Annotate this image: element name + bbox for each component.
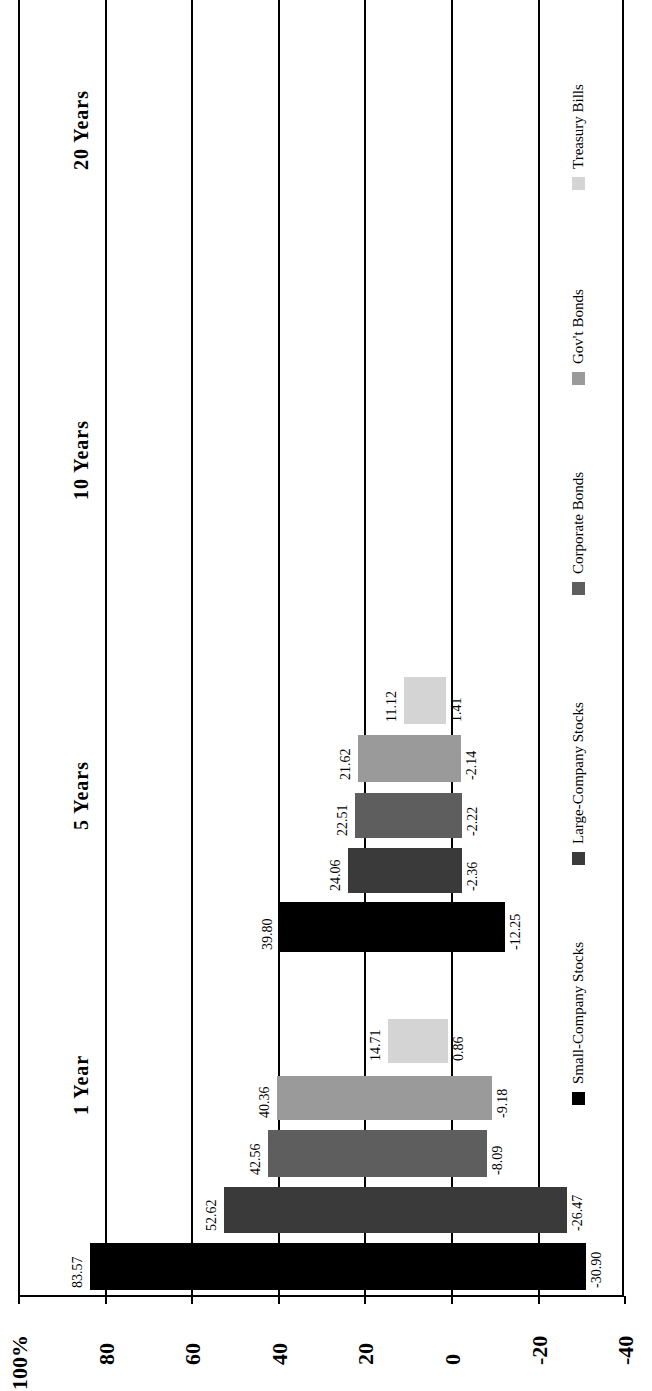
max-value-label: 14.71 <box>368 1030 384 1062</box>
gridline <box>538 0 540 1296</box>
legend-item: Gov't Bonds <box>570 289 587 385</box>
gridline <box>191 0 193 1296</box>
min-value-label: 1.41 <box>449 698 465 723</box>
min-value-label: -2.36 <box>465 862 481 891</box>
tick-mark <box>105 1296 107 1304</box>
tick-label: -20 <box>527 1336 553 1365</box>
tick-label: 20 <box>353 1343 379 1365</box>
bar-small-company-stocks <box>90 1243 586 1290</box>
legend-swatch <box>572 177 585 190</box>
legend-item: Corporate Bonds <box>570 472 587 595</box>
min-value-label: 0.86 <box>451 1037 467 1062</box>
min-value-label: -2.22 <box>465 807 481 836</box>
tick-mark <box>451 1296 453 1304</box>
max-value-label: 40.36 <box>257 1087 273 1119</box>
legend-label: Large-Company Stocks <box>570 702 587 844</box>
bar-corporate-bonds <box>355 793 462 838</box>
min-value-label: -9.18 <box>495 1089 511 1118</box>
tick-label: 100% <box>7 1335 33 1390</box>
gridline <box>105 0 107 1296</box>
legend-item: Small-Company Stocks <box>570 942 587 1105</box>
max-value-label: 22.51 <box>335 805 351 837</box>
max-value-label: 39.80 <box>260 919 276 951</box>
category-header: 10 Years <box>70 420 93 500</box>
tick-mark <box>538 1296 540 1304</box>
value-axis-line <box>18 1295 624 1297</box>
tick-label: 0 <box>440 1354 466 1365</box>
bar-treasury-bills <box>404 677 446 724</box>
bar-gov-t-bonds <box>277 1076 492 1120</box>
tick-mark <box>278 1296 280 1304</box>
bar-gov-t-bonds <box>358 735 461 782</box>
bar-large-company-stocks <box>348 848 462 893</box>
max-value-label: 24.06 <box>328 860 344 892</box>
min-value-label: -30.90 <box>589 1252 605 1288</box>
min-value-label: -12.25 <box>508 914 524 950</box>
tick-mark <box>18 1296 20 1304</box>
max-value-label: 21.62 <box>338 749 354 781</box>
legend-label: Corporate Bonds <box>570 472 587 574</box>
tick-label: 60 <box>180 1343 206 1365</box>
tick-label: 80 <box>94 1343 120 1365</box>
legend-label: Treasury Bills <box>570 84 587 169</box>
min-value-label: -2.14 <box>464 751 480 780</box>
max-value-label: 42.56 <box>248 1144 264 1176</box>
bar-treasury-bills <box>388 1019 448 1063</box>
max-value-label: 52.62 <box>204 1200 220 1232</box>
category-header: 1 Year <box>70 1055 93 1115</box>
tick-label: 40 <box>267 1343 293 1365</box>
legend-swatch <box>572 852 585 865</box>
min-value-label: -8.09 <box>490 1146 506 1175</box>
legend-label: Gov't Bonds <box>570 289 587 364</box>
legend-item: Large-Company Stocks <box>570 702 587 865</box>
tick-label: -40 <box>613 1336 639 1365</box>
legend-item: Treasury Bills <box>570 84 587 190</box>
bar-small-company-stocks <box>280 902 505 952</box>
tick-mark <box>624 1296 626 1304</box>
category-header: 20 Years <box>70 90 93 170</box>
min-value-label: -26.47 <box>570 1195 586 1231</box>
max-value-label: 83.57 <box>70 1257 86 1289</box>
tick-mark <box>191 1296 193 1304</box>
tick-mark <box>364 1296 366 1304</box>
bar-large-company-stocks <box>224 1187 566 1233</box>
legend-swatch <box>572 582 585 595</box>
legend-swatch <box>572 372 585 385</box>
bar-corporate-bonds <box>268 1130 487 1177</box>
max-value-label: 11.12 <box>384 691 400 722</box>
category-header: 5 Years <box>70 761 93 830</box>
legend-swatch <box>572 1092 585 1105</box>
legend-label: Small-Company Stocks <box>570 942 587 1084</box>
